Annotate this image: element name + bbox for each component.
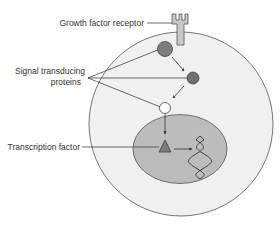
signal-protein-3 — [160, 103, 171, 114]
signal-protein-1 — [158, 42, 173, 57]
signal-protein-2 — [187, 72, 199, 84]
transcription-label: Transcription factor — [8, 142, 81, 152]
receptor-label: Growth factor receptor — [59, 18, 144, 28]
signal-label-line1: Signal transducing — [15, 66, 85, 76]
signal-label-line2: proteins — [51, 77, 81, 87]
signaling-diagram: Growth factor receptor Signal transducin… — [0, 0, 280, 229]
